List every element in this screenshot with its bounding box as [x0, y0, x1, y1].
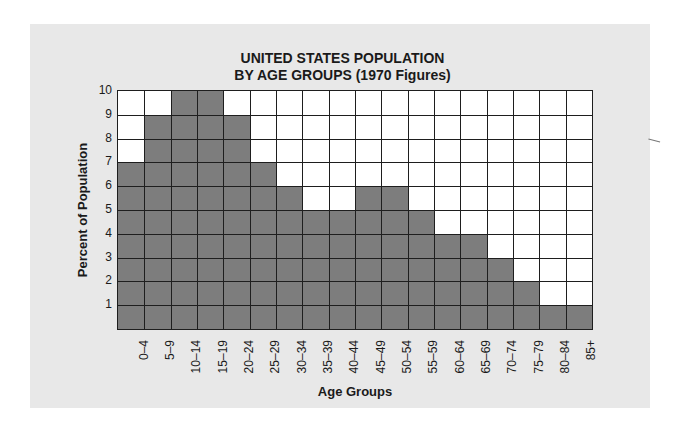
chart-title-line-2: BY AGE GROUPS (1970 Figures) [0, 67, 685, 84]
y-tick-label: 9 [92, 108, 112, 120]
bar-85+ [566, 305, 592, 329]
gridline-horizontal [118, 258, 592, 259]
x-tick-text: 85+ [585, 340, 599, 360]
x-tick-label: 25–29 [255, 340, 269, 376]
gridline-horizontal [118, 234, 592, 235]
bar-70–74 [487, 258, 513, 329]
x-tick-label: 55–59 [413, 340, 427, 376]
bar-55–59 [408, 210, 434, 329]
y-tick-label: 10 [92, 84, 112, 96]
x-tick-label: 15–19 [202, 340, 216, 376]
x-tick-label: 45–49 [360, 340, 374, 376]
x-axis-label: Age Groups [117, 384, 593, 399]
x-tick-label: 10–14 [176, 340, 190, 376]
y-tick-label: 3 [92, 251, 112, 263]
x-tick-label: 65–69 [466, 340, 480, 376]
gridline-horizontal [118, 281, 592, 282]
bar-35–39 [302, 210, 328, 329]
gridline-horizontal [118, 115, 592, 116]
bar-20–24 [223, 115, 249, 329]
bar-0–4 [118, 162, 144, 329]
chart-title-line-1: UNITED STATES POPULATION [0, 50, 685, 67]
y-tick-label: 5 [92, 203, 112, 215]
x-tick-label: 0–4 [123, 340, 137, 376]
y-tick-label: 8 [92, 132, 112, 144]
plot-area [117, 90, 593, 330]
gridline-horizontal [118, 186, 592, 187]
gridline-horizontal [118, 139, 592, 140]
x-tick-label: 40–44 [334, 340, 348, 376]
bar-40–44 [329, 210, 355, 329]
chart-title: UNITED STATES POPULATION BY AGE GROUPS (… [0, 50, 685, 84]
y-axis-label: Percent of Population [75, 143, 90, 277]
y-tick-label: 6 [92, 179, 112, 191]
y-tick-label: 4 [92, 227, 112, 239]
gridline-horizontal [118, 210, 592, 211]
bar-80–84 [539, 305, 565, 329]
y-tick-label: 1 [92, 298, 112, 310]
gridline-horizontal [118, 305, 592, 306]
y-tick-label: 7 [92, 155, 112, 167]
y-tick-label: 2 [92, 274, 112, 286]
bar-25–29 [250, 162, 276, 329]
x-tick-label: 85+ [571, 340, 585, 376]
bar-5–9 [144, 115, 170, 329]
x-tick-label: 20–24 [229, 340, 243, 376]
gridline-horizontal [118, 162, 592, 163]
x-tick-label: 35–39 [308, 340, 322, 376]
x-tick-label: 5–9 [150, 340, 164, 376]
x-tick-label: 30–34 [281, 340, 295, 376]
x-tick-label: 60–64 [439, 340, 453, 376]
x-tick-label: 80–84 [545, 340, 559, 376]
x-tick-label: 50–54 [387, 340, 401, 376]
x-tick-label: 70–74 [492, 340, 506, 376]
x-tick-label: 75–79 [518, 340, 532, 376]
